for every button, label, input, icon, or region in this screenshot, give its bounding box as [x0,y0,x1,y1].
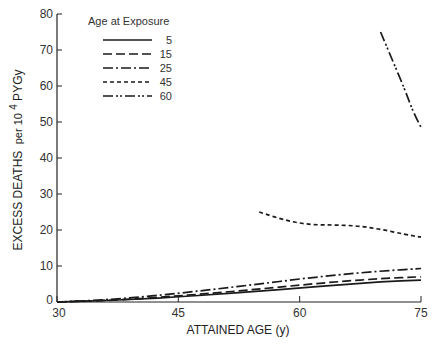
y-tick-label: 80 [40,7,54,21]
series-line-45 [259,212,421,237]
y-axis-title-sub: per 10 [12,113,24,144]
series-lines [57,32,421,302]
legend: Age at Exposure 515254560 [88,15,172,102]
legend-label: 15 [160,48,172,60]
y-tick-label: 40 [40,151,54,165]
y-tick-label: 10 [40,259,54,273]
y-tick-label: 0 [46,293,53,307]
x-tick-label: 45 [172,306,186,320]
line-chart: 0102030405060708030456075 Age at Exposur… [0,0,436,349]
legend-label: 25 [160,62,172,74]
series-line-25 [57,269,421,302]
y-axis-title-sup: 4 [8,104,19,110]
series-line-60 [381,32,421,127]
y-tick-label: 20 [40,223,54,237]
y-axis-title-main: EXCESS DEATHS [11,151,25,251]
x-tick-label: 75 [414,306,428,320]
x-tick-label: 30 [52,306,66,320]
y-tick-label: 60 [40,79,54,93]
series-line-15 [57,277,421,302]
y-tick-label: 70 [40,43,54,57]
y-axis-title-tail: PYGy [11,70,25,101]
legend-label: 45 [160,76,172,88]
y-tick-label: 30 [40,187,54,201]
x-tick-label: 60 [293,306,307,320]
y-tick-label: 50 [40,115,54,129]
legend-label: 5 [166,34,172,46]
legend-label: 60 [160,90,172,102]
legend-title: Age at Exposure [88,15,169,27]
x-axis-title: ATTAINED AGE (y) [187,323,290,337]
y-axis-title: EXCESS DEATHS per 10 4 PYGy [6,70,25,251]
axes: 0102030405060708030456075 [40,7,428,320]
